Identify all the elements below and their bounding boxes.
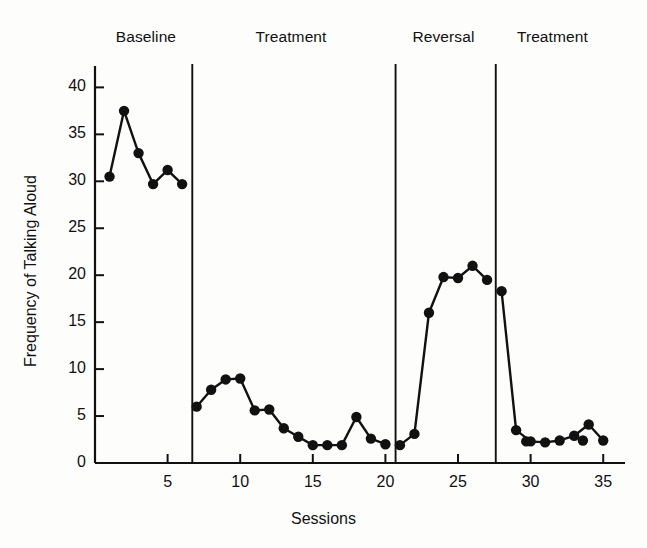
data-point [133, 148, 143, 158]
data-point [424, 308, 434, 318]
data-point [162, 165, 172, 175]
data-point [148, 179, 158, 189]
data-point [598, 435, 608, 445]
data-point [250, 405, 260, 415]
y-tick-label: 20 [40, 265, 86, 283]
phase-label: Treatment [517, 28, 588, 46]
data-point [366, 433, 376, 443]
data-point [395, 440, 405, 450]
data-point [409, 429, 419, 439]
y-tick-label: 35 [40, 124, 86, 142]
y-tick-label: 0 [40, 453, 86, 471]
data-point [496, 286, 506, 296]
data-point [264, 404, 274, 414]
data-point [521, 436, 531, 446]
data-point [482, 275, 492, 285]
data-point [578, 435, 588, 445]
data-point [279, 423, 289, 433]
data-point [177, 179, 187, 189]
data-point [583, 419, 593, 429]
data-point [337, 440, 347, 450]
data-point [220, 374, 230, 384]
data-point [235, 373, 245, 383]
y-axis-title: Frequency of Talking Aloud [22, 175, 40, 367]
data-point [554, 435, 564, 445]
phase-label: Treatment [256, 28, 327, 46]
series-line [400, 266, 487, 445]
series-line [197, 378, 386, 445]
y-tick-label: 5 [40, 406, 86, 424]
y-tick-label: 40 [40, 77, 86, 95]
x-tick-label: 35 [578, 473, 628, 491]
data-point [293, 432, 303, 442]
x-tick-label: 20 [360, 473, 410, 491]
data-point [308, 440, 318, 450]
x-tick-label: 30 [506, 473, 556, 491]
data-point [511, 425, 521, 435]
data-point [540, 437, 550, 447]
y-tick-label: 10 [40, 359, 86, 377]
data-point [453, 273, 463, 283]
data-point [351, 412, 361, 422]
data-point [191, 401, 201, 411]
y-tick-label: 30 [40, 171, 86, 189]
phase-label: Baseline [116, 28, 176, 46]
data-point [438, 272, 448, 282]
y-tick-label: 15 [40, 312, 86, 330]
phase-label: Reversal [412, 28, 474, 46]
data-point [119, 106, 129, 116]
x-tick-label: 10 [215, 473, 265, 491]
data-point [380, 439, 390, 449]
data-point [104, 171, 114, 181]
chart-figure: BaselineTreatmentReversalTreatment 05101… [0, 0, 647, 548]
x-tick-label: 5 [143, 473, 193, 491]
data-point [206, 385, 216, 395]
x-tick-label: 15 [288, 473, 338, 491]
x-tick-label: 25 [433, 473, 483, 491]
x-axis-title: Sessions [0, 510, 647, 528]
data-point [322, 440, 332, 450]
data-point [467, 261, 477, 271]
y-tick-label: 25 [40, 218, 86, 236]
chart-plot-area [0, 0, 647, 548]
